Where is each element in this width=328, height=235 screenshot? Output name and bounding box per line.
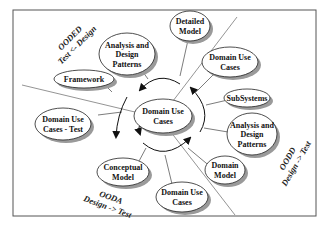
node-label: Model <box>179 27 202 36</box>
node-label: Cases - Test <box>43 125 83 134</box>
node-label: Cases <box>172 198 192 207</box>
node-label: Detailed <box>176 17 205 26</box>
node-label: Analysis and <box>230 121 274 130</box>
node-label: Conceptual <box>103 163 143 172</box>
node-label: Cases <box>220 63 240 72</box>
node-label: SubSystems <box>227 94 268 103</box>
node-label: Patterns <box>238 140 267 149</box>
diagram-canvas: Analysis andDesignPatternsDetailedModelD… <box>0 0 328 235</box>
node-label: Model <box>112 173 135 182</box>
node-label: Analysis and <box>105 41 149 50</box>
node-label: Cases <box>153 117 173 126</box>
node-label: Design <box>115 50 139 59</box>
node-label: Framework <box>64 75 105 84</box>
node-label: Domain <box>211 161 239 170</box>
node-label: Domain Use <box>142 107 184 116</box>
node-label: Domain Use <box>209 53 251 62</box>
node-label: Design <box>240 130 264 139</box>
node-label: Domain Use <box>161 188 203 197</box>
node-label: Domain Use <box>42 115 84 124</box>
node-label: Model <box>214 171 237 180</box>
node-label: Patterns <box>113 60 142 69</box>
